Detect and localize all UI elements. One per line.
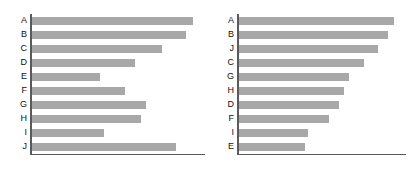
- y-tick-label: E: [15, 72, 27, 81]
- bar: [32, 31, 186, 39]
- y-tick-label: E: [222, 142, 234, 151]
- y-tick-label: H: [15, 114, 27, 123]
- x-axis-line: [237, 154, 406, 155]
- y-tick-label: F: [15, 86, 27, 95]
- chart-panel-unsorted: ABCDEFGHIJ: [0, 0, 206, 177]
- bar: [32, 101, 146, 109]
- y-tick-label: G: [222, 72, 234, 81]
- y-tick-label: J: [15, 142, 27, 151]
- bar: [239, 31, 388, 39]
- bar: [239, 59, 364, 67]
- y-tick-label: A: [222, 16, 234, 25]
- y-tick-label: I: [222, 128, 234, 137]
- y-tick-label: F: [222, 114, 234, 123]
- y-tick-label: D: [15, 58, 27, 67]
- plot-area-unsorted: ABCDEFGHIJ: [0, 0, 206, 177]
- bar: [239, 45, 378, 53]
- x-axis-line: [30, 154, 205, 155]
- bar: [239, 17, 394, 25]
- figure-root: ABCDEFGHIJ ABJCGHDFIE: [0, 0, 412, 177]
- y-tick-label: J: [222, 44, 234, 53]
- bar: [239, 115, 329, 123]
- y-tick-label: G: [15, 100, 27, 109]
- y-tick-label: C: [15, 44, 27, 53]
- bar: [32, 129, 104, 137]
- y-tick-label: H: [222, 86, 234, 95]
- bar: [32, 73, 100, 81]
- plot-area-sorted: ABJCGHDFIE: [206, 0, 412, 177]
- bar: [239, 73, 349, 81]
- bar: [239, 143, 305, 151]
- bar: [32, 59, 135, 67]
- bar: [239, 129, 308, 137]
- bar: [32, 143, 176, 151]
- y-tick-label: I: [15, 128, 27, 137]
- y-tick-label: C: [222, 58, 234, 67]
- y-tick-label: D: [222, 100, 234, 109]
- y-tick-label: A: [15, 16, 27, 25]
- bar: [32, 87, 125, 95]
- bar: [32, 45, 162, 53]
- bar: [239, 101, 339, 109]
- bar: [32, 17, 193, 25]
- bar: [239, 87, 344, 95]
- chart-panel-sorted: ABJCGHDFIE: [206, 0, 412, 177]
- y-tick-label: B: [15, 30, 27, 39]
- bar: [32, 115, 141, 123]
- y-tick-label: B: [222, 30, 234, 39]
